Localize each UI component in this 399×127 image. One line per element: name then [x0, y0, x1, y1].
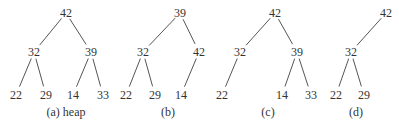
tree-node: 32	[345, 45, 357, 59]
tree-node: 42	[269, 6, 281, 20]
tree-node: 32	[137, 45, 149, 59]
tree-edge	[299, 59, 308, 87]
tree-edge	[149, 18, 175, 45]
tree-edge	[285, 59, 295, 87]
tree-caption: (a) heap	[47, 105, 86, 119]
tree-node: 39	[85, 45, 97, 59]
tree-edge	[145, 59, 153, 87]
tree-caption: (d)	[349, 105, 363, 119]
tree-node: 29	[40, 88, 52, 102]
tree-node: 29	[358, 88, 370, 102]
tree-node: 33	[97, 88, 109, 102]
tree-node: 42	[380, 6, 392, 20]
tree-edge	[70, 19, 86, 45]
tree-caption: (b)	[161, 105, 175, 119]
tree-edge	[36, 59, 44, 87]
tree-edge	[184, 58, 196, 86]
tree-edge	[357, 18, 381, 45]
tree-edge	[19, 58, 31, 86]
tree-node: 42	[193, 45, 205, 59]
tree-edge	[278, 19, 292, 44]
tree-node: 14	[276, 88, 288, 102]
tree-edge	[225, 58, 237, 86]
tree-node: 39	[291, 45, 303, 59]
tree-edge	[93, 59, 101, 87]
tree-node: 22	[330, 88, 342, 102]
tree-edge	[353, 59, 361, 87]
tree-edge	[76, 58, 88, 86]
tree-node: 33	[305, 88, 317, 102]
tree-node: 32	[28, 45, 40, 59]
tree-node: 22	[216, 88, 228, 102]
tree-node: 14	[175, 88, 187, 102]
tree-caption: (c)	[261, 105, 274, 119]
tree-edge	[40, 18, 62, 45]
tree-edge	[129, 59, 140, 87]
tree-node: 29	[149, 88, 161, 102]
tree-nodes: 4232392229143339324222291442323922143342…	[10, 6, 392, 102]
tree-node: 42	[60, 6, 72, 20]
tree-node: 22	[10, 88, 22, 102]
tree-edge	[339, 59, 349, 87]
tree-node: 39	[174, 6, 186, 20]
tree-edge	[246, 18, 270, 45]
heap-trees-diagram: 4232392229143339324222291442323922143342…	[0, 0, 399, 127]
tree-edge	[183, 19, 195, 44]
tree-node: 14	[67, 88, 79, 102]
tree-captions: (a) heap(b)(c)(d)	[47, 105, 363, 119]
tree-node: 32	[234, 45, 246, 59]
tree-node: 22	[120, 88, 132, 102]
